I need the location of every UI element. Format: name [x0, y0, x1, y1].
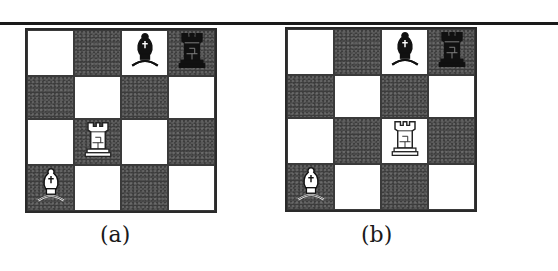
square-b-r3-c0	[287, 164, 334, 210]
square-a-r3-c1	[74, 165, 121, 211]
black-bishop-icon	[126, 31, 164, 75]
black-bishop-icon	[386, 30, 424, 74]
chessboard-a	[25, 28, 217, 213]
caption-a: (a)	[100, 222, 130, 247]
square-b-r1-c3	[428, 75, 475, 118]
square-a-r0-c2	[121, 30, 168, 76]
square-b-r2-c3	[428, 118, 475, 164]
square-b-r2-c0	[287, 118, 334, 164]
white-rook-icon	[79, 120, 117, 164]
chessboard-b	[285, 27, 477, 212]
square-a-r2-c2	[121, 119, 168, 165]
square-a-r1-c3	[168, 76, 215, 119]
black-rook-icon	[433, 30, 471, 74]
square-b-r3-c3	[428, 164, 475, 210]
caption-b: (b)	[361, 222, 392, 247]
square-a-r0-c1	[74, 30, 121, 76]
top-rule	[0, 22, 558, 25]
square-a-r1-c2	[121, 76, 168, 119]
square-a-r1-c1	[74, 76, 121, 119]
square-b-r2-c1	[334, 118, 381, 164]
square-a-r2-c3	[168, 119, 215, 165]
square-a-r1-c0	[27, 76, 74, 119]
square-b-r0-c2	[381, 29, 428, 75]
square-a-r3-c0	[27, 165, 74, 211]
square-b-r0-c0	[287, 29, 334, 75]
square-a-r2-c0	[27, 119, 74, 165]
white-bishop-icon	[32, 166, 70, 210]
square-b-r0-c3	[428, 29, 475, 75]
square-a-r3-c3	[168, 165, 215, 211]
square-b-r3-c2	[381, 164, 428, 210]
square-a-r0-c0	[27, 30, 74, 76]
square-b-r0-c1	[334, 29, 381, 75]
square-b-r1-c2	[381, 75, 428, 118]
square-b-r1-c0	[287, 75, 334, 118]
square-b-r3-c1	[334, 164, 381, 210]
square-b-r2-c2	[381, 118, 428, 164]
black-rook-icon	[173, 31, 211, 75]
square-a-r0-c3	[168, 30, 215, 76]
square-a-r2-c1	[74, 119, 121, 165]
square-b-r1-c1	[334, 75, 381, 118]
square-a-r3-c2	[121, 165, 168, 211]
white-rook-icon	[386, 119, 424, 163]
white-bishop-icon	[292, 165, 330, 209]
